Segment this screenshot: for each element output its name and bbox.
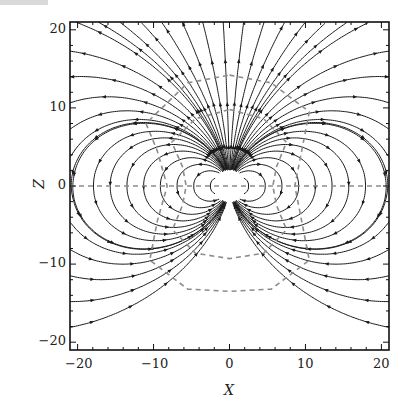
- arrow-head-icon: [257, 162, 261, 165]
- y-tick-label: 20: [49, 21, 66, 36]
- x-tick-label: 20: [373, 356, 390, 371]
- arrow-head-icon: [130, 289, 134, 292]
- arrow-head-icon: [353, 95, 357, 99]
- x-axis-title: X: [224, 382, 234, 398]
- arrow-head-icon: [164, 249, 168, 252]
- arrow-head-icon: [345, 240, 349, 243]
- arrow-head-icon: [199, 62, 202, 66]
- arrow-head-icon: [166, 29, 170, 33]
- arrow-head-icon: [357, 112, 361, 115]
- streamline: [234, 119, 388, 169]
- arrow-head-icon: [130, 133, 134, 136]
- arrow-head-icon: [245, 104, 248, 108]
- arrow-head-icon: [326, 145, 330, 149]
- arrow-head-icon: [73, 172, 76, 176]
- x-tick-label: 10: [297, 356, 314, 371]
- arrow-head-icon: [202, 159, 206, 162]
- arrow-head-icon: [288, 216, 292, 219]
- arrow-head-icon: [219, 102, 222, 106]
- arrow-head-icon: [242, 199, 246, 202]
- arrow-head-icon: [362, 200, 365, 204]
- streamline: [236, 151, 316, 221]
- arrow-head-icon: [89, 257, 93, 260]
- y-tick-label: 0: [58, 177, 66, 192]
- arrow-head-icon: [198, 162, 202, 165]
- arrow-head-icon: [366, 257, 370, 260]
- streamline: [233, 203, 389, 302]
- x-tick-label: −20: [65, 356, 92, 371]
- streamline: [70, 203, 224, 255]
- arrow-head-icon: [365, 277, 369, 280]
- arrow-head-icon: [383, 172, 386, 176]
- arrow-head-icon: [94, 200, 97, 204]
- arrow-head-icon: [134, 118, 138, 122]
- arrow-head-icon: [90, 277, 94, 280]
- streamline: [235, 203, 389, 255]
- arrow-head-icon: [252, 159, 256, 162]
- arrow-head-icon: [110, 240, 114, 243]
- arrow-head-icon: [287, 269, 291, 273]
- arrow-head-icon: [291, 249, 295, 252]
- arrow-head-icon: [325, 133, 329, 136]
- y-tick-label: 10: [49, 99, 66, 114]
- arrow-head-icon: [224, 59, 228, 63]
- arrow-head-icon: [168, 137, 172, 140]
- arrow-head-icon: [249, 61, 252, 65]
- y-tick-label: −20: [39, 333, 66, 348]
- y-tick-label: −10: [39, 255, 66, 270]
- arrow-head-icon: [181, 119, 185, 123]
- arrow-head-icon: [171, 132, 175, 135]
- arrow-head-icon: [167, 269, 171, 273]
- arrow-head-icon: [98, 112, 102, 115]
- arrow-head-icon: [321, 118, 325, 122]
- streamlines: [70, 22, 389, 327]
- arrow-head-icon: [226, 102, 230, 106]
- streamline: [70, 203, 226, 302]
- x-tick-label: −10: [141, 356, 168, 371]
- arrow-head-icon: [129, 145, 133, 149]
- arrow-head-icon: [102, 95, 106, 99]
- arrow-head-icon: [90, 321, 94, 324]
- y-axis-title: Z: [31, 179, 47, 189]
- arrow-head-icon: [143, 101, 147, 104]
- streamline: [232, 23, 325, 170]
- arrow-head-icon: [134, 52, 138, 56]
- arrow-head-icon: [324, 289, 328, 292]
- arrow-head-icon: [365, 321, 369, 324]
- arrow-head-icon: [273, 119, 277, 123]
- arrow-head-icon: [212, 102, 215, 106]
- arrow-head-icon: [166, 216, 170, 219]
- arrow-head-icon: [291, 232, 295, 236]
- arrow-head-icon: [213, 199, 217, 202]
- arrow-head-icon: [284, 132, 288, 135]
- arrow-head-icon: [164, 232, 168, 236]
- arrow-head-icon: [311, 101, 315, 104]
- arrow-head-icon: [286, 137, 290, 140]
- arrow-head-icon: [181, 71, 185, 75]
- reference-curves: [70, 75, 389, 291]
- x-tick-label: 0: [225, 356, 233, 371]
